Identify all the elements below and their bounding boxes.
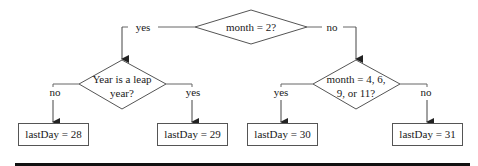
decision-30-day-months: month = 4, 6, 9, or 11? (313, 60, 400, 109)
edge-month-yes: yes (274, 84, 313, 122)
result-text: lastDay = 28 (25, 128, 82, 140)
result-text: lastDay = 31 (399, 128, 455, 140)
edge-label-yes: yes (274, 86, 289, 98)
decision-30-day-line2: 9, or 11? (337, 87, 376, 99)
edge-month-no: no (400, 84, 432, 122)
result-text: lastDay = 30 (254, 128, 311, 140)
result-text: lastDay = 29 (164, 128, 221, 140)
edge-label-yes: yes (186, 86, 201, 98)
decision-month-2-text: month = 2? (226, 21, 276, 33)
edge-label-yes: yes (136, 21, 151, 33)
edge-leap-yes: yes (166, 84, 200, 122)
result-box-31: lastDay = 31 (393, 124, 463, 146)
edge-leap-no: no (50, 84, 80, 122)
edge-label-no: no (327, 21, 339, 33)
edge-root-yes: yes (122, 21, 195, 59)
decision-30-day-line1: month = 4, 6, (326, 73, 385, 85)
bottom-rule (15, 163, 470, 166)
decision-leap-year-line2: year? (110, 87, 134, 99)
flowchart: month = 2? yes no Year is a leap year? n… (0, 0, 478, 166)
result-box-28: lastDay = 28 (19, 124, 89, 146)
decision-month-2: month = 2? (195, 10, 307, 44)
decision-leap-year: Year is a leap year? (79, 60, 166, 109)
decision-leap-year-line1: Year is a leap (92, 73, 152, 85)
edge-label-no: no (50, 86, 62, 98)
result-box-29: lastDay = 29 (158, 124, 228, 146)
result-box-30: lastDay = 30 (248, 124, 318, 146)
edge-root-no: no (307, 21, 356, 59)
edge-label-no: no (421, 86, 433, 98)
